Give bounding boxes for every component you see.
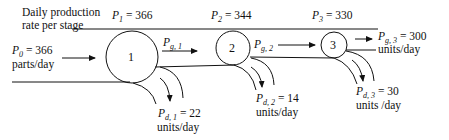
conveyor-1-2: [155, 65, 235, 67]
rate-symbol: P: [211, 9, 218, 21]
good-subscript: g, 2: [261, 44, 273, 53]
good-symbol: P: [378, 30, 385, 42]
defect-value: = 30: [378, 85, 399, 97]
input-symbol: P: [12, 44, 19, 56]
input-value: = 366: [26, 44, 53, 56]
defect-value: = 22: [180, 107, 201, 119]
defect-symbol: P: [356, 85, 363, 97]
good-symbol: P: [254, 38, 261, 50]
stage-2-defect-unit: units/day: [256, 106, 298, 118]
defect-arc-3-outer: [346, 51, 374, 81]
defect-value: = 14: [278, 92, 299, 104]
defect-arc-3-inner: [334, 58, 357, 84]
stage-2-rate: P2 = 344: [211, 9, 252, 26]
stage-1-rate: P1 = 366: [112, 9, 153, 26]
rate-subscript: 1: [119, 15, 123, 24]
good-value: = 300: [400, 30, 427, 42]
rate-subscript: 2: [218, 15, 222, 24]
header-line-2: rate per stage: [22, 19, 83, 31]
rate-value: = 344: [225, 9, 252, 21]
defect-symbol: P: [158, 107, 165, 119]
defect-arc-1-outer: [160, 67, 183, 98]
good-symbol: P: [163, 36, 170, 48]
stage-3-rate: P3 = 330: [312, 9, 353, 26]
stage-1-defect-unit: units/day: [157, 121, 199, 133]
rate-subscript: 3: [319, 15, 323, 24]
stage-1-number: 1: [128, 50, 134, 65]
rate-symbol: P: [312, 9, 319, 21]
defect-symbol: P: [256, 92, 263, 104]
stage-3-number: 3: [330, 38, 336, 53]
stage-2-good-label: Pg, 2: [254, 38, 273, 55]
defect-arc-2-outer: [251, 58, 274, 85]
rate-value: = 330: [326, 9, 353, 21]
good-subscript: g, 1: [170, 42, 182, 51]
stage-1-good-label: Pg, 1: [163, 36, 182, 53]
rate-value: = 366: [126, 9, 153, 21]
stage-3-defect-unit: units /day: [356, 99, 401, 111]
conveyor-2-3: [250, 57, 334, 58]
stage-3-good-unit: units/day: [378, 43, 420, 55]
defect-arc-1-inner: [133, 83, 156, 104]
defect-arrow-3: [352, 60, 363, 81]
input-unit: parts/day: [12, 58, 54, 70]
header-line-1: Daily production: [22, 6, 100, 18]
stage-2-number: 2: [229, 41, 235, 56]
defect-arc-2-inner: [234, 65, 256, 90]
rate-symbol: P: [112, 9, 119, 21]
defect-arrow-2: [251, 67, 262, 87]
defect-arrow-1: [160, 78, 170, 101]
